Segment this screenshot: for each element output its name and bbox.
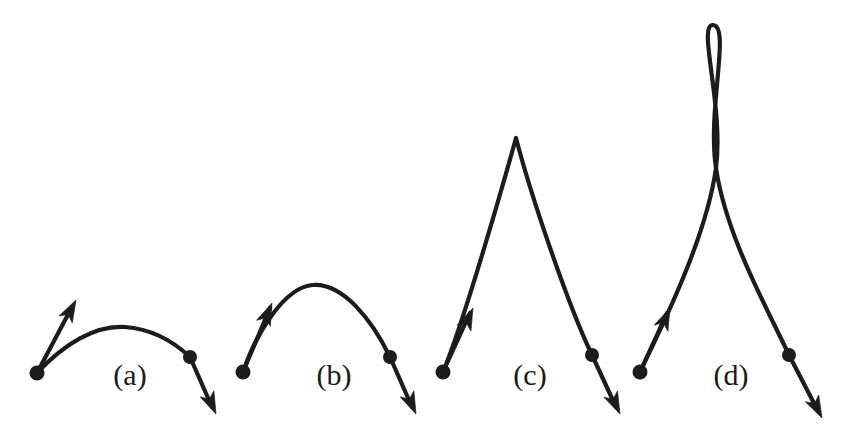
end-point-dot-b xyxy=(383,350,397,364)
start-point-dot-b xyxy=(236,365,251,380)
start-point-dot-c xyxy=(436,365,451,380)
end-point-dot-a xyxy=(183,350,197,364)
start-point-dot-a xyxy=(30,366,45,381)
end-tangent-arrowhead-a xyxy=(200,391,223,417)
end-tangent-arrowhead-d xyxy=(805,395,828,421)
end-point-dot-d xyxy=(782,348,796,362)
panel-labels-group: (a)(b)(c)(d) xyxy=(113,358,748,392)
panel-label-b: (b) xyxy=(317,358,352,392)
curve-panel-a xyxy=(30,296,223,417)
start-point-dot-d xyxy=(633,365,648,380)
end-tangent-arrowhead-b xyxy=(400,391,423,417)
panel-label-a: (a) xyxy=(113,358,146,392)
start-tangent-a xyxy=(37,307,72,373)
end-tangent-d xyxy=(789,355,818,411)
figure-canvas: (a)(b)(c)(d) xyxy=(0,0,853,444)
start-tangent-arrowhead-a xyxy=(59,296,83,322)
curve-panel-b xyxy=(236,285,423,417)
end-tangent-arrowhead-c xyxy=(604,391,627,417)
panel-label-c: (c) xyxy=(513,358,546,392)
panel-label-d: (d) xyxy=(714,358,749,392)
curve-c xyxy=(443,138,592,372)
curves-illustration: (a)(b)(c)(d) xyxy=(0,0,853,444)
start-tangent-arrowhead-d xyxy=(654,305,677,331)
end-point-dot-c xyxy=(585,348,599,362)
panels-group xyxy=(30,25,829,421)
